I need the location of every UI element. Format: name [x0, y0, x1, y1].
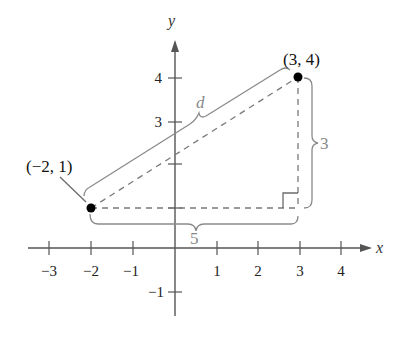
- distance-formula-diagram: −3 −2 −1 1 2 3 4 4 3 −1 x y d 5 3: [0, 0, 399, 337]
- x-tick-label: 2: [254, 263, 262, 279]
- hypotenuse-label: d: [196, 93, 205, 112]
- x-tick-label: 4: [337, 263, 345, 279]
- y-tick-label: 3: [155, 114, 163, 130]
- right-angle-marker: [283, 193, 298, 208]
- coordinate-plane: −3 −2 −1 1 2 3 4 4 3 −1 x y d 5 3: [0, 0, 399, 337]
- right-triangle: [91, 77, 298, 208]
- point-b-label: (3, 4): [283, 50, 320, 69]
- x-tick-label: 1: [213, 263, 221, 279]
- y-axis-label: y: [166, 12, 176, 30]
- point-a-label: (−2, 1): [26, 157, 72, 176]
- vertical-brace: [304, 78, 318, 208]
- vertical-leg-label: 3: [320, 134, 329, 153]
- hypotenuse-dashed: [91, 77, 298, 208]
- x-tick-label: 3: [296, 263, 304, 279]
- y-tick-label: 4: [155, 70, 163, 86]
- x-axis-label: x: [375, 239, 383, 256]
- x-tick-label: −1: [123, 263, 139, 279]
- x-tick-label: −2: [83, 263, 99, 279]
- hypotenuse-brace: [84, 68, 290, 196]
- x-tick-label: −3: [41, 263, 57, 279]
- point-b: [294, 73, 303, 82]
- point-a: [87, 204, 96, 213]
- horizontal-leg-label: 5: [190, 229, 199, 248]
- y-tick-label: −1: [148, 284, 164, 300]
- label-leader-line: [60, 177, 86, 202]
